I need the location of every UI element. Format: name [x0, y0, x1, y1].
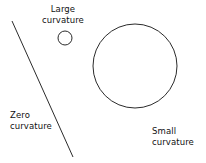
large-curvature-label-line1: Large — [42, 4, 84, 15]
large-curvature-circle — [58, 31, 72, 45]
small-curvature-circle — [93, 24, 177, 108]
zero-curvature-label: Zero curvature — [10, 110, 52, 131]
small-curvature-label: Small curvature — [152, 126, 194, 147]
zero-curvature-line — [12, 21, 73, 157]
small-curvature-label-line1: Small — [152, 126, 194, 137]
small-curvature-label-line2: curvature — [152, 137, 194, 148]
zero-curvature-label-line1: Zero — [10, 110, 52, 121]
large-curvature-label-line2: curvature — [42, 15, 84, 26]
curvature-diagram: Large curvature Zero curvature Small cur… — [0, 0, 206, 163]
large-curvature-label: Large curvature — [42, 4, 84, 25]
zero-curvature-label-line2: curvature — [10, 121, 52, 132]
